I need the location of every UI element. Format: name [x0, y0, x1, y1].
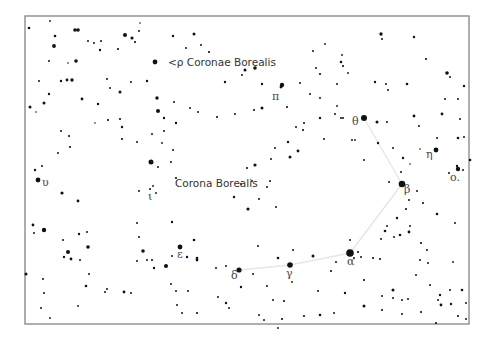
field-star [57, 152, 59, 154]
field-star [85, 285, 88, 288]
field-star [215, 267, 217, 269]
star-pi[interactable] [280, 83, 284, 87]
field-star [81, 98, 84, 101]
field-star [319, 314, 322, 317]
field-star [173, 101, 175, 103]
field-star [450, 303, 452, 305]
field-star [66, 250, 70, 254]
field-star [274, 147, 276, 149]
field-star [43, 292, 45, 294]
field-star [270, 158, 272, 160]
field-star [340, 117, 342, 119]
field-star [186, 256, 188, 258]
field-star [74, 59, 78, 63]
field-star [151, 259, 153, 261]
field-star [357, 251, 359, 253]
field-star [119, 118, 121, 120]
field-star [60, 80, 62, 82]
field-star [134, 41, 136, 43]
field-star [138, 30, 140, 32]
field-star [408, 231, 411, 234]
field-star [372, 257, 374, 259]
field-star [330, 270, 332, 272]
field-star [70, 78, 73, 81]
field-star [234, 113, 236, 115]
field-star [312, 50, 314, 52]
label-theta: θ [352, 115, 359, 128]
field-star [435, 322, 437, 324]
label-gamma: γ [286, 267, 293, 280]
field-star [342, 117, 344, 119]
label-iota: ι [148, 190, 152, 203]
field-star [100, 40, 102, 42]
field-star [60, 191, 63, 194]
field-star [416, 190, 418, 192]
field-star [77, 200, 80, 203]
field-star [86, 245, 90, 249]
field-star [33, 232, 35, 234]
field-star [68, 135, 70, 137]
field-star [384, 230, 387, 233]
field-star [193, 33, 196, 36]
field-star [457, 315, 459, 317]
field-star [422, 202, 424, 204]
field-star [465, 318, 467, 320]
field-star [334, 113, 336, 115]
field-star [155, 96, 158, 99]
star-rho[interactable] [153, 60, 158, 65]
field-star [106, 288, 108, 290]
field-star [258, 198, 260, 200]
field-star [387, 89, 389, 91]
field-star [170, 283, 172, 285]
field-star [70, 258, 73, 261]
field-star [405, 208, 407, 210]
field-star [130, 36, 133, 39]
field-star [419, 148, 421, 150]
field-star [42, 228, 46, 232]
field-star [258, 314, 260, 316]
field-star [275, 206, 277, 208]
field-star [363, 279, 365, 281]
field-star [62, 239, 64, 241]
field-star [319, 73, 321, 75]
star-eta[interactable] [434, 148, 439, 153]
field-star [216, 116, 218, 118]
field-star [286, 106, 288, 108]
field-star [349, 239, 351, 241]
field-star [224, 81, 226, 83]
field-star [138, 236, 140, 238]
field-star [38, 80, 40, 82]
field-star [408, 199, 410, 201]
field-star [335, 261, 337, 263]
field-star [153, 267, 155, 269]
field-star [197, 111, 199, 113]
label-epsilon: ε [177, 248, 183, 261]
label-upsilon: υ [42, 176, 49, 189]
field-star [67, 62, 69, 64]
field-star [155, 192, 157, 194]
field-star [302, 129, 304, 131]
field-star [449, 76, 451, 78]
field-star [28, 27, 31, 30]
field-star [269, 180, 271, 182]
star-chart: <ρ Coronae Borealis Corona Borealis π θ … [0, 0, 494, 343]
field-star [87, 40, 89, 42]
field-star [54, 35, 57, 38]
field-star [415, 274, 417, 276]
field-star [176, 304, 178, 306]
field-star [392, 297, 394, 299]
star-theta[interactable] [361, 115, 367, 121]
field-star [86, 231, 88, 233]
field-star [465, 302, 467, 304]
field-star [43, 102, 46, 105]
field-star [175, 122, 177, 124]
field-star [386, 121, 388, 123]
field-star [48, 93, 50, 95]
field-star [324, 43, 326, 45]
field-star [170, 161, 172, 163]
field-star [48, 60, 50, 62]
field-star [217, 296, 219, 298]
field-star [106, 78, 108, 80]
star-upsilon[interactable] [36, 178, 41, 183]
field-star [376, 121, 379, 124]
